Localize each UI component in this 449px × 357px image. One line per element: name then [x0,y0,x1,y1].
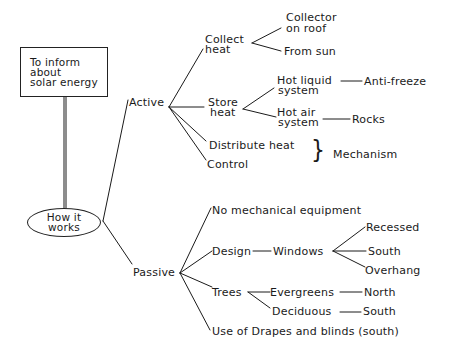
root-node: How it works [27,208,101,237]
node-rocks: Rocks [352,114,385,125]
node-hot-air-line2: system [278,118,319,128]
node-design: Design [212,246,251,257]
node-trees: Trees [212,287,242,298]
node-collect-heat-line2: heat [205,45,231,55]
node-control: Control [207,159,248,170]
node-evergreens: Evergreens [270,287,334,298]
node-deciduous-south: South [363,306,396,317]
node-anti-freeze: Anti-freeze [364,76,426,87]
node-overhang: Overhang [365,265,421,276]
goal-line-3: solar energy [30,77,98,87]
node-recessed: Recessed [366,222,420,233]
node-mechanism: Mechanism [333,149,397,160]
node-window-south: South [368,246,401,257]
brace-icon: } [311,138,325,162]
node-windows: Windows [273,246,324,257]
node-distribute-heat: Distribute heat [209,140,294,151]
node-store-heat-line2: heat [210,108,236,118]
concept-map: To inform about solar energy How it work… [0,0,449,357]
goal-box: To inform about solar energy [20,47,108,97]
node-north: North [364,287,396,298]
node-deciduous: Deciduous [272,306,332,317]
node-no-mechanical-equipment: No mechanical equipment [212,205,361,216]
node-hot-liquid-line2: system [278,86,319,96]
node-active: Active [129,97,164,108]
node-collector-line2: on roof [286,24,326,34]
root-line-2: works [28,222,100,232]
node-from-sun: From sun [284,46,336,57]
node-passive: Passive [133,267,175,278]
node-drapes-blinds: Use of Drapes and blinds (south) [212,326,399,337]
